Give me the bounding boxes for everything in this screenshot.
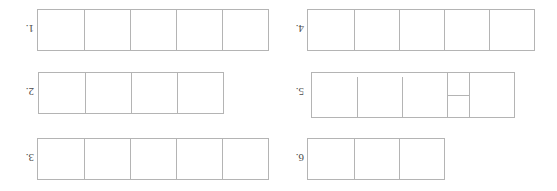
strip-5[interactable] — [311, 72, 515, 118]
strip-1-cell-2[interactable] — [176, 10, 222, 50]
strip-2-cell-3[interactable] — [85, 73, 131, 113]
strip-4-cell-1[interactable] — [489, 10, 534, 50]
strip-2-cell-2[interactable] — [131, 73, 177, 113]
strip-3-cell-2[interactable] — [176, 139, 222, 179]
strip-4-grid[interactable] — [307, 9, 535, 51]
strip-5-cell-4[interactable] — [312, 77, 357, 117]
strip-5-label: 5. — [296, 86, 304, 97]
strip-1-grid[interactable] — [37, 9, 269, 51]
strip-5-split-column[interactable] — [447, 73, 469, 117]
strip-1-cell-5[interactable] — [38, 10, 84, 50]
strip-5-cell-2[interactable] — [402, 77, 447, 117]
strip-6[interactable] — [307, 138, 445, 180]
strip-4[interactable] — [307, 9, 535, 51]
strip-6-label: 6. — [296, 152, 304, 163]
strip-4-cell-4[interactable] — [354, 10, 399, 50]
strip-6-cell-3[interactable] — [308, 139, 354, 179]
worksheet-page: 1. 2. 3. — [0, 0, 557, 191]
strip-5-split-bottom[interactable] — [448, 73, 469, 95]
strip-5-cell-1[interactable] — [469, 73, 514, 117]
worksheet-sheet: 1. 2. 3. — [0, 0, 557, 191]
strip-4-cell-5[interactable] — [308, 10, 354, 50]
strip-1[interactable] — [37, 9, 269, 51]
strip-1-cell-3[interactable] — [130, 10, 176, 50]
strip-1-cell-4[interactable] — [84, 10, 130, 50]
strip-3-label: 3. — [26, 152, 34, 163]
strip-2-grid[interactable] — [38, 72, 224, 114]
strip-3-cell-4[interactable] — [84, 139, 130, 179]
strip-2[interactable] — [38, 72, 224, 114]
strip-5-cell-3[interactable] — [357, 77, 402, 117]
strip-3[interactable] — [37, 138, 269, 180]
strip-1-cell-1[interactable] — [222, 10, 268, 50]
strip-4-cell-3[interactable] — [399, 10, 444, 50]
strip-6-grid[interactable] — [307, 138, 445, 180]
strip-1-label: 1. — [26, 23, 34, 34]
strip-2-cell-1[interactable] — [177, 73, 223, 113]
strip-3-grid[interactable] — [37, 138, 269, 180]
strip-4-label: 4. — [296, 23, 304, 34]
strip-4-cell-2[interactable] — [444, 10, 489, 50]
strip-2-cell-4[interactable] — [39, 73, 85, 113]
strip-3-cell-5[interactable] — [38, 139, 84, 179]
strip-6-cell-2[interactable] — [354, 139, 399, 179]
strip-6-cell-1[interactable] — [399, 139, 444, 179]
strip-2-label: 2. — [26, 86, 34, 97]
strip-3-cell-1[interactable] — [222, 139, 268, 179]
strip-3-cell-3[interactable] — [130, 139, 176, 179]
strip-5-split-top[interactable] — [448, 95, 469, 117]
strip-5-grid[interactable] — [311, 72, 515, 118]
